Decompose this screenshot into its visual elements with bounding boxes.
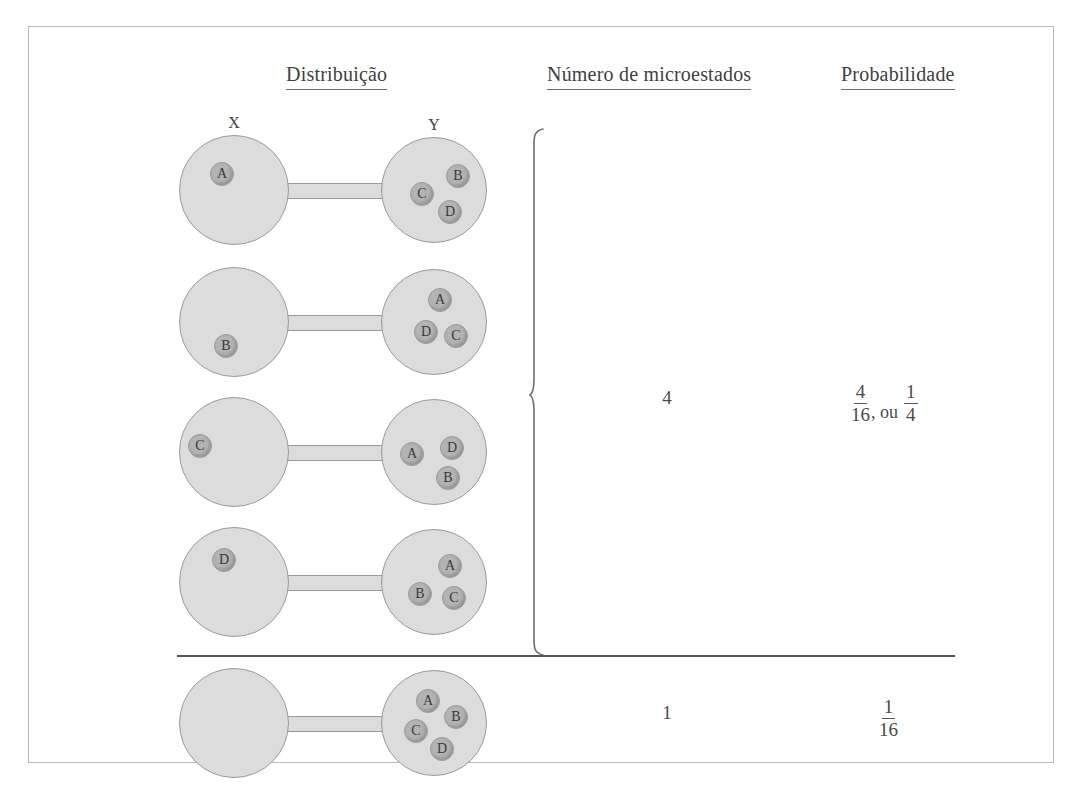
molecule-b: B <box>408 582 432 606</box>
connecting-tube <box>283 315 389 331</box>
flask-row: ABCD <box>179 668 499 780</box>
molecule-c: C <box>442 586 466 610</box>
molecule-a: A <box>438 554 462 578</box>
molecule-a: A <box>400 442 424 466</box>
fraction-one-quarter: 1 4 <box>904 382 918 425</box>
bulb-y: ADB <box>381 399 487 505</box>
molecule-c: C <box>404 719 428 743</box>
bulb-x: B <box>179 267 289 377</box>
molecule-c: C <box>444 324 468 348</box>
column-header-probability: Probabilidade <box>841 63 955 90</box>
fraction-numerator: 4 <box>854 382 868 404</box>
molecule-c: C <box>410 182 434 206</box>
molecule-a: A <box>416 689 440 713</box>
fraction-denominator: 16 <box>879 719 898 740</box>
molecule-b: B <box>446 164 470 188</box>
microstate-count-group-b: 1 <box>637 702 697 724</box>
fraction-denominator: 16 <box>851 404 870 425</box>
fraction-denominator: 4 <box>906 404 916 425</box>
fraction-numerator: 1 <box>904 382 918 404</box>
bulb-label-x: X <box>180 114 288 132</box>
fraction-separator-text: , ou <box>870 402 904 425</box>
molecule-a: A <box>428 288 452 312</box>
molecule-d: D <box>414 320 438 344</box>
fraction-one-sixteenth: 1 16 <box>879 697 898 740</box>
column-header-distribution: Distribuição <box>286 63 387 90</box>
probability-group-b: 1 16 <box>879 697 898 740</box>
bulb-x: C <box>179 397 289 507</box>
molecule-d: D <box>212 548 236 572</box>
bulb-y: YBCD <box>381 137 487 243</box>
figure-frame: Distribuição Número de microestados Prob… <box>28 26 1054 763</box>
microstate-count-group-a: 4 <box>637 387 697 409</box>
flask-row: DABC <box>179 527 499 639</box>
connecting-tube <box>283 445 389 461</box>
molecule-d: D <box>430 737 454 761</box>
flask-row: BADC <box>179 267 499 379</box>
molecule-b: B <box>214 334 238 358</box>
connecting-tube <box>283 716 389 732</box>
bulb-x <box>179 668 289 778</box>
column-header-microstates: Número de microestados <box>547 63 751 90</box>
molecule-b: B <box>444 705 468 729</box>
bulb-y: ABCD <box>381 670 487 776</box>
flask-row: XAYBCD <box>179 135 499 247</box>
molecule-d: D <box>438 200 462 224</box>
fraction-numerator: 1 <box>882 697 896 719</box>
molecule-b: B <box>436 466 460 490</box>
bulb-x: D <box>179 527 289 637</box>
connecting-tube <box>283 183 389 199</box>
bulb-label-y: Y <box>382 116 486 134</box>
molecule-a: A <box>210 162 234 186</box>
molecule-d: D <box>440 436 464 460</box>
bulb-x: XA <box>179 135 289 245</box>
bulb-y: ADC <box>381 269 487 375</box>
group-divider <box>177 655 955 657</box>
bulb-y: ABC <box>381 529 487 635</box>
molecule-c: C <box>188 434 212 458</box>
fraction-four-sixteenths: 4 16 <box>851 382 870 425</box>
connecting-tube <box>283 575 389 591</box>
flask-row: CADB <box>179 397 499 509</box>
probability-group-a: 4 16 , ou 1 4 <box>851 382 918 425</box>
group-brace <box>529 127 555 657</box>
